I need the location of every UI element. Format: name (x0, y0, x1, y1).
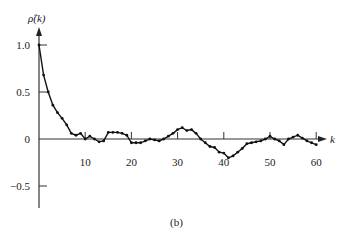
data-point (310, 141, 313, 144)
data-point (61, 117, 64, 120)
x-tick-label: 10 (80, 156, 92, 168)
y-axis-arrow-icon (36, 27, 42, 36)
data-point (306, 139, 309, 142)
y-tick-label: −0.5 (10, 180, 30, 192)
data-point (209, 145, 212, 148)
data-point (246, 142, 249, 145)
data-point (241, 147, 244, 150)
data-point (93, 138, 96, 141)
data-point (199, 138, 202, 141)
data-point (75, 134, 78, 137)
data-point (195, 132, 198, 135)
data-point (204, 141, 207, 144)
data-point (56, 111, 59, 114)
x-tick-label: 30 (172, 156, 184, 168)
data-point (301, 137, 304, 140)
data-point (232, 155, 235, 158)
data-point (158, 139, 161, 142)
data-point (42, 74, 45, 77)
data-point (227, 156, 230, 159)
data-point (130, 141, 133, 144)
data-point (264, 138, 267, 141)
data-point (107, 131, 110, 134)
y-axis-label: ρ̂(k) (27, 12, 46, 25)
data-point (259, 139, 262, 142)
data-point (255, 140, 258, 143)
data-point (88, 135, 91, 138)
data-point (79, 132, 82, 135)
data-point (190, 128, 193, 131)
data-point (153, 139, 156, 142)
data-point (292, 136, 295, 139)
data-point (84, 138, 87, 141)
x-tick-label: 60 (311, 156, 323, 168)
data-point (38, 44, 41, 47)
data-point (296, 134, 299, 137)
axes (36, 27, 327, 208)
data-point (185, 129, 188, 132)
data-point (98, 140, 101, 143)
x-axis-arrow-icon (318, 136, 327, 142)
data-point (144, 139, 147, 142)
x-tick-label: 50 (265, 156, 277, 168)
data-point (51, 104, 54, 107)
data-point (70, 132, 73, 135)
ticks: 1.00.50−0.5102030405060 (10, 39, 322, 192)
figure-caption: (b) (170, 216, 183, 229)
data-point (125, 134, 128, 137)
data-point (121, 132, 124, 135)
data-point (278, 139, 281, 142)
acf-chart: 1.00.50−0.5102030405060 ρ̂(k) k (b) (0, 0, 362, 239)
y-tick-label: 1.0 (16, 39, 30, 51)
y-tick-label: 0 (25, 133, 31, 145)
y-tick-label: 0.5 (16, 86, 30, 98)
data-point (102, 139, 105, 142)
data-point (47, 91, 50, 94)
data-point (112, 131, 115, 134)
data-point (315, 143, 318, 146)
data-point (236, 151, 239, 154)
data-point (287, 138, 290, 141)
x-tick-label: 20 (126, 156, 138, 168)
data-point (282, 143, 285, 146)
x-axis-label: k (330, 133, 336, 145)
data-point (135, 141, 138, 144)
data-point (116, 131, 119, 134)
data-point (222, 152, 225, 155)
acf-line (39, 45, 316, 158)
data-point (273, 138, 276, 141)
data-point (181, 126, 184, 129)
data-point (162, 138, 165, 141)
data-series (38, 44, 318, 160)
data-point (65, 124, 68, 127)
data-point (250, 141, 253, 144)
data-point (167, 135, 170, 138)
data-point (172, 132, 175, 135)
data-point (139, 141, 142, 144)
data-point (218, 151, 221, 154)
data-point (269, 135, 272, 138)
data-point (148, 138, 151, 141)
data-point (213, 146, 216, 149)
data-point (176, 128, 179, 131)
